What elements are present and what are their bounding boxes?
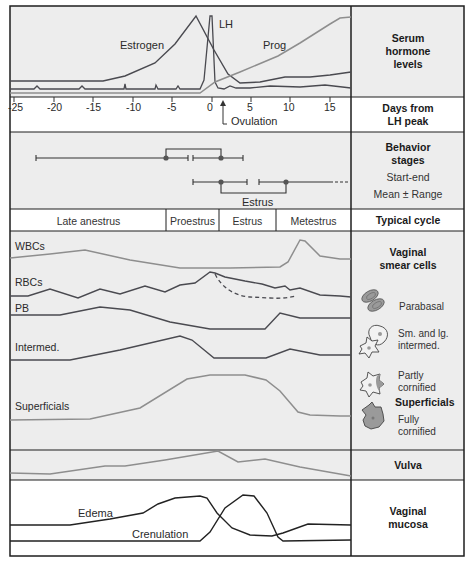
vulva-title: Vulva [352, 450, 464, 480]
parabasal-legend-label: Parabasal [399, 301, 444, 312]
title-line: Vulva [394, 459, 422, 472]
parabasal-cell-icon [360, 287, 387, 314]
intermed-legend-label-line1: Sm. and lg. [398, 328, 449, 339]
fully-cornified-cell-icon [362, 402, 384, 429]
title-line: mucosa [388, 518, 428, 531]
partly-cornified-label-line2: cornified [398, 382, 436, 393]
title-line: Vaginal [390, 505, 427, 518]
superficials-legend-heading: Superficials [395, 396, 455, 408]
mucosa-title: Vaginal mucosa [352, 480, 464, 556]
estrous-cycle-diagram: Estrogen LH Prog -25 -20 -15 -10 -5 0 5 … [0, 0, 476, 561]
partly-cornified-cell-icon [360, 372, 384, 397]
intermediate-cell-icon [359, 325, 387, 358]
intermed-legend-label-line2: intermed. [398, 340, 440, 351]
fully-cornified-label-line1: Fully [398, 414, 419, 425]
partly-cornified-label-line1: Partly [398, 370, 424, 381]
fully-cornified-label-line2: cornified [398, 426, 436, 437]
